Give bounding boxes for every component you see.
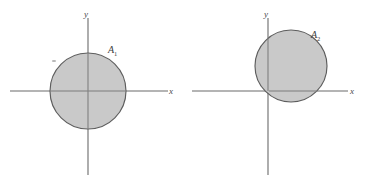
stray-speck-mark bbox=[52, 60, 56, 62]
x-axis-label-left: x bbox=[168, 86, 173, 96]
region-label-a1-subscript: 1 bbox=[114, 50, 117, 57]
figure-container: x y A1 x y A2 bbox=[0, 0, 370, 180]
y-axis-label-right: y bbox=[263, 9, 268, 19]
panel-left: x y A1 bbox=[10, 9, 173, 175]
y-axis-label-left: y bbox=[83, 9, 88, 19]
x-axis-label-right: x bbox=[349, 86, 354, 96]
panel-right: x y A2 bbox=[192, 9, 354, 175]
region-label-a2-subscript: 2 bbox=[317, 35, 320, 42]
figure-canvas: x y A1 x y A2 bbox=[0, 0, 370, 180]
region-label-a1: A1 bbox=[107, 44, 117, 57]
